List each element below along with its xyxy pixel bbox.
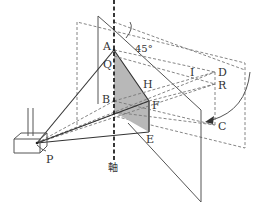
projection-diagram: A Q B H F E I D R C P 軸 45° [0,0,262,211]
label-a: A [102,40,112,53]
shaded-region [114,50,149,132]
label-d: D [218,66,227,79]
point-a [113,49,116,52]
label-i: I [190,66,194,79]
label-axis: 軸 [108,161,118,173]
label-e: E [146,133,154,146]
label-f: F [152,99,160,112]
label-p: P [46,153,54,166]
label-b: B [102,93,110,106]
projector-icon [14,108,47,153]
angle-arc [126,22,131,38]
label-q: Q [103,58,112,71]
point-b [113,100,116,103]
label-angle: 45° [135,43,153,54]
label-r: R [218,79,227,92]
arrow-head-icon [205,116,214,124]
label-h: H [143,78,153,91]
label-c: C [218,120,226,133]
